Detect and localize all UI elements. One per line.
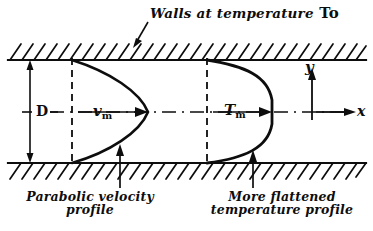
- y-axis-label: y: [305, 58, 314, 76]
- velocity-leader-arrowhead: [116, 144, 124, 156]
- velocity-caption-leader: [116, 144, 124, 188]
- x-axis-label: x: [357, 103, 365, 119]
- temperature-caption-leader: [249, 150, 257, 188]
- temperature-profile-caption: More flattenedtemperature profile: [196, 190, 368, 216]
- dimension-arrowhead-up: [27, 60, 34, 70]
- mean-temperature-label: Tm: [224, 101, 246, 120]
- x-axis-arrowhead: [344, 108, 356, 116]
- wall-temperature-label: Walls at temperature To: [150, 6, 339, 22]
- temperature-caption-line-2: temperature profile: [211, 202, 353, 217]
- mean-velocity-label: vm: [93, 102, 112, 121]
- bottom-wall-hatching: [10, 163, 366, 179]
- wall-leader-shaft: [137, 22, 148, 41]
- velocity-profile-caption: Parabolic velocityprofile: [10, 190, 170, 216]
- dimension-arrowhead-down: [27, 153, 34, 163]
- wall-temperature-symbol: To: [314, 4, 339, 22]
- diagram-canvas: Walls at temperature To D vm Tm x y Para…: [0, 0, 373, 231]
- bottom-wall: [8, 163, 366, 179]
- wall-leader-arrowhead: [133, 38, 142, 48]
- wall-temperature-text: Walls at temperature: [150, 5, 314, 21]
- velocity-caption-line-2: profile: [66, 202, 114, 217]
- channel-width-label: D: [36, 103, 48, 119]
- temperature-vector-arrowhead: [259, 107, 272, 117]
